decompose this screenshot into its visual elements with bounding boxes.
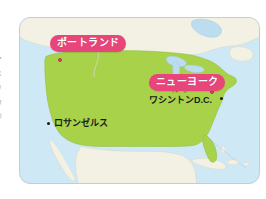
margin-fragment: の <box>0 112 2 120</box>
mexico-landmass <box>76 146 197 183</box>
map-label-newyork[interactable]: ニューヨーク <box>149 74 225 91</box>
baja-peninsula <box>49 140 74 181</box>
margin-fragment: ア <box>0 56 2 64</box>
city-label-losangeles-text: ロサンゼルス <box>54 118 108 128</box>
caribbean-islands <box>192 158 226 169</box>
maritimes-landmass <box>229 47 253 62</box>
city-label-washington: ディーシー ワシントンD.C. <box>149 96 212 105</box>
page-margin-text: ア メ リ カ の ・ <box>0 56 12 134</box>
map-label-portland-text: ポートランド <box>57 37 119 48</box>
margin-fragment: リ <box>0 84 2 92</box>
city-label-losangeles: ロサンゼルス <box>54 119 108 128</box>
map-label-newyork-text: ニューヨーク <box>156 76 218 87</box>
city-label-washington-ruby-wrap: ディーシー ワシントンD.C. <box>149 96 212 105</box>
margin-fragment: ・ <box>0 126 2 134</box>
margin-fragment: カ <box>0 98 2 106</box>
city-label-washington-text: ワシントンD.C. <box>149 95 212 105</box>
city-marker-losangeles[interactable] <box>47 122 50 125</box>
island-puertorico <box>243 163 249 166</box>
margin-fragment: メ <box>0 70 2 78</box>
city-marker-portland[interactable] <box>58 58 62 62</box>
city-marker-washington[interactable] <box>220 97 223 100</box>
island-hispaniola <box>227 160 239 165</box>
map-label-portland[interactable]: ポートランド <box>50 35 126 52</box>
usa-map-panel: ポートランド ニューヨーク ロサンゼルス ディーシー ワシントンD.C. <box>19 17 260 184</box>
